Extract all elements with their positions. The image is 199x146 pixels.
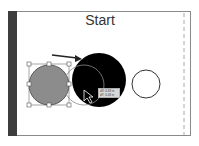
resize-handle-w: [27, 82, 31, 86]
resize-handle-ne: [67, 62, 71, 66]
resize-handle-s: [47, 103, 51, 107]
selected-circle[interactable]: [29, 65, 69, 105]
resize-handle-e: [67, 82, 71, 86]
measurement-tooltip: dX: 0.83 in dY: 0.03 in: [98, 88, 120, 98]
resize-handle-nw: [27, 62, 31, 66]
artwork-layer: [0, 0, 199, 146]
small-circle[interactable]: [132, 70, 160, 98]
arrow-right-icon: [52, 55, 82, 62]
black-circle[interactable]: [72, 53, 126, 107]
resize-handle-n: [47, 62, 51, 66]
tooltip-dy: dY: 0.03 in: [100, 93, 118, 97]
resize-handle-se: [67, 103, 71, 107]
resize-handle-sw: [27, 103, 31, 107]
